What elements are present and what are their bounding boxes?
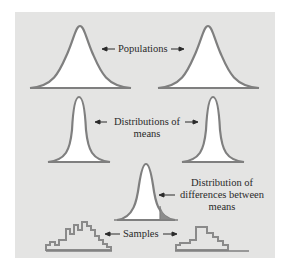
distributions-of-means-label: Distributions of means: [109, 116, 185, 140]
sample-histogram-left: [46, 222, 111, 250]
difference-distribution-curve: [117, 164, 175, 220]
difference-label-line3: means: [177, 201, 267, 213]
difference-label-line2: differences between: [177, 189, 267, 201]
distributions-of-means-line1: Distributions of: [109, 116, 185, 128]
samples-label: Samples: [123, 228, 159, 240]
means-distribution-curve-right: [182, 97, 244, 162]
difference-label-line1: Distribution of: [177, 177, 267, 189]
distributions-of-means-line2: means: [109, 128, 185, 140]
populations-label: Populations: [118, 43, 168, 55]
shaded-tail-region: [160, 206, 175, 220]
difference-distribution-label: Distribution of differences between mean…: [177, 177, 267, 213]
sample-histogram-right: [176, 227, 228, 250]
means-distribution-curve-left: [48, 97, 110, 162]
population-curve-left: [30, 26, 131, 88]
population-curve-right: [158, 26, 259, 88]
